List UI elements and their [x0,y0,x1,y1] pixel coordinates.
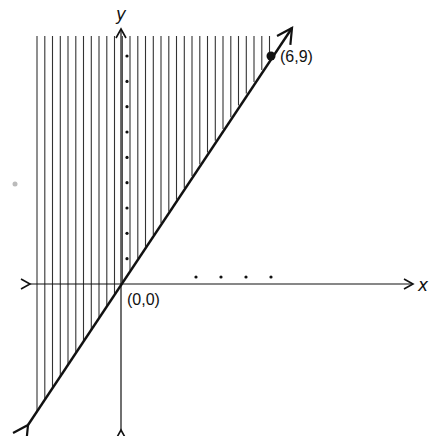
y-tick-dot [125,232,128,235]
y-tick-dot [125,54,128,57]
inequality-graph: y x (0,0) (6,9) [0,0,432,436]
x-tick-dot [244,275,247,278]
x-tick-dot [269,275,272,278]
y-axis-label: y [115,4,127,24]
origin-label: (0,0) [127,291,160,308]
y-tick-dot [125,181,128,184]
y-tick-dot [125,206,128,209]
y-tick-dot [125,257,128,260]
stray-mark [13,182,18,187]
point-label: (6,9) [280,48,313,65]
y-tick-dot [125,130,128,133]
y-tick-dot [125,105,128,108]
point-6-9-marker [267,52,276,61]
x-tick-dot [194,275,197,278]
shaded-region-hatching [37,36,270,412]
x-tick-dot [219,275,222,278]
x-axis-label: x [417,275,429,295]
x-axis-tick-dots [194,275,272,278]
y-axis-tick-dots [125,54,128,260]
y-tick-dot [125,156,128,159]
y-tick-dot [125,80,128,83]
